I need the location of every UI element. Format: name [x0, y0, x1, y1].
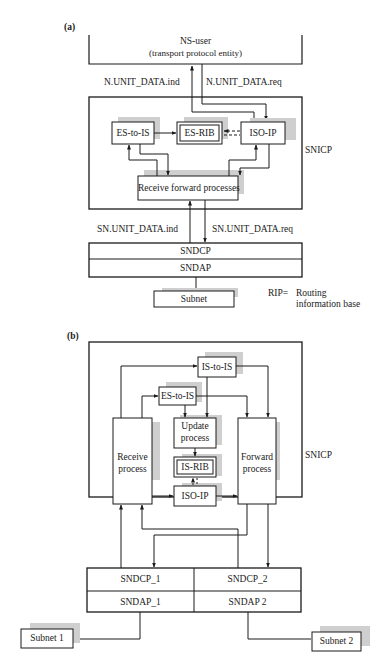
sn-unit-data-req: SN.UNIT_DATA.req	[212, 224, 293, 235]
sndap-2: SNDAP 2	[194, 597, 301, 608]
rip-definition-line1: Routing	[296, 288, 327, 299]
subnet-2-box: Subnet 2	[312, 636, 361, 647]
es-to-is-box-b: ES-to-IS	[159, 391, 196, 402]
subnet-1-box: Subnet 1	[21, 633, 73, 644]
sndcp-2: SNDCP_2	[194, 574, 301, 585]
receive-process-line1: Receive	[113, 452, 152, 463]
sndap-layer: SNDAP	[89, 263, 302, 274]
n-unit-data-req: N.UNIT_DATA.req	[206, 77, 282, 88]
receive-forward-box: Receive forward processes	[138, 183, 238, 194]
n-unit-data-ind: N.UNIT_DATA.ind	[104, 77, 180, 88]
forward-process-line2: process	[238, 464, 276, 475]
sn-unit-data-ind: SN.UNIT_DATA.ind	[97, 224, 178, 235]
rip-definition-line2: information base	[296, 299, 360, 310]
sndcp-1: SNDCP_1	[87, 574, 194, 585]
update-process-line2: process	[174, 433, 216, 444]
diagram-canvas	[0, 0, 383, 671]
iso-ip-box-b: ISO-IP	[174, 491, 216, 502]
sndap-1: SNDAP_1	[87, 597, 194, 608]
snicp-label-a: SNICP	[305, 145, 332, 156]
snicp-label-b: SNICP	[305, 450, 332, 461]
ns-user-title: NS-user	[89, 36, 302, 47]
ns-user-subtitle: (transport protocol entity)	[89, 48, 302, 59]
receive-process-line2: process	[113, 464, 152, 475]
update-process-line1: Update	[174, 421, 216, 432]
iso-ip-box-a: ISO-IP	[241, 128, 285, 139]
part-b-label: (b)	[67, 331, 79, 342]
es-rib-box: ES-RIB	[177, 128, 222, 139]
part-a-label: (a)	[64, 22, 75, 33]
subnet-box-a: Subnet	[154, 294, 234, 305]
forward-process-line1: Forward	[238, 452, 276, 463]
is-to-is-box: IS-to-IS	[198, 362, 236, 373]
rip-key: RIP=	[268, 288, 288, 299]
is-rib-box: IS-RIB	[174, 462, 216, 473]
es-to-is-box-a: ES-to-IS	[112, 128, 154, 139]
sndcp-layer: SNDCP	[89, 246, 302, 257]
